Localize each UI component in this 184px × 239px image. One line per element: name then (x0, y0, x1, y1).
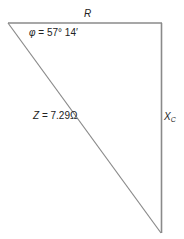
xc-main: X (164, 111, 171, 122)
impedance-triangle (0, 0, 184, 239)
impedance-hypotenuse-Z (8, 23, 161, 233)
label-resistance: R (84, 8, 91, 20)
label-impedance: Z = 7.29Ω (33, 110, 77, 122)
phi-value: = 57° 14′ (36, 27, 78, 38)
z-value: = 7.29Ω (39, 110, 77, 121)
label-phase-angle: φ = 57° 14′ (29, 27, 78, 39)
label-capacitive-reactance: XC (164, 111, 176, 126)
xc-subscript: C (171, 116, 176, 123)
